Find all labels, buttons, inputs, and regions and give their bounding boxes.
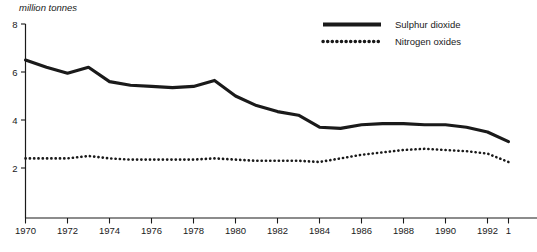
x-tick-label: 1 xyxy=(506,225,511,236)
x-tick-label: 1990 xyxy=(435,225,456,236)
x-tick-group: 1970197219741976197819801982198419861988… xyxy=(15,218,511,236)
x-tick-label: 1986 xyxy=(351,225,372,236)
y-tick-label: 2 xyxy=(12,163,17,174)
x-tick-label: 1980 xyxy=(225,225,246,236)
x-tick-label: 1984 xyxy=(309,225,330,236)
x-tick-label: 1978 xyxy=(183,225,204,236)
x-tick-label: 1974 xyxy=(99,225,120,236)
emissions-line-chart: million tonnes 8642 19701972197419761978… xyxy=(0,0,537,252)
legend-label-nitrogen-oxides: Nitrogen oxides xyxy=(395,36,461,47)
legend-label-sulphur-dioxide: Sulphur dioxide xyxy=(395,19,461,30)
series-line-nitrogen-oxides xyxy=(26,149,509,162)
x-tick-label: 1988 xyxy=(393,225,414,236)
x-tick-label: 1982 xyxy=(267,225,288,236)
y-tick-label: 4 xyxy=(12,115,17,126)
x-tick-label: 1972 xyxy=(57,225,78,236)
chart-page: million tonnes 8642 19701972197419761978… xyxy=(0,0,537,252)
series-line-sulphur-dioxide xyxy=(26,60,509,142)
y-tick-group: 8642 xyxy=(12,19,25,174)
chart-axes xyxy=(26,24,537,218)
y-axis-caption: million tonnes xyxy=(19,2,77,13)
x-tick-label: 1976 xyxy=(141,225,162,236)
x-tick-label: 1970 xyxy=(15,225,36,236)
y-tick-label: 6 xyxy=(12,67,17,78)
x-tick-label: 1992 xyxy=(477,225,498,236)
series-group xyxy=(26,60,509,162)
chart-legend: Sulphur dioxide Nitrogen oxides xyxy=(323,19,461,47)
y-tick-label: 8 xyxy=(12,19,17,30)
